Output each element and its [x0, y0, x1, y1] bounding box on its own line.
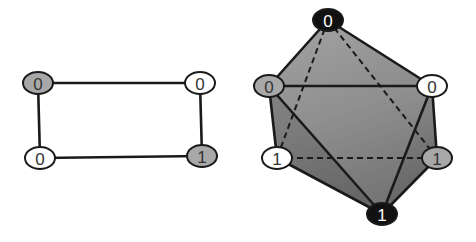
diagram-canvas: 0001000111 — [0, 0, 476, 242]
node-label: 1 — [377, 206, 386, 225]
node-label: 0 — [195, 75, 204, 94]
octahedron-node-ul: 0 — [254, 75, 284, 97]
node-label: 0 — [35, 150, 44, 169]
square-node-tr: 0 — [185, 72, 215, 94]
node-label: 0 — [264, 78, 273, 97]
octahedron-node-lr: 1 — [422, 147, 452, 169]
square-node-tl: 0 — [23, 72, 53, 94]
node-label: 0 — [323, 12, 332, 31]
square-node-br: 1 — [187, 145, 217, 167]
node-label: 0 — [427, 78, 436, 97]
node-label: 0 — [33, 75, 42, 94]
square-edge — [40, 156, 202, 158]
octahedron-node-top: 0 — [313, 9, 343, 31]
square-node-bl: 0 — [25, 147, 55, 169]
octahedron-node-bot: 1 — [367, 203, 397, 225]
octahedron-node-ll: 1 — [262, 147, 292, 169]
node-label: 1 — [197, 148, 206, 167]
node-label: 1 — [272, 150, 281, 169]
node-label: 1 — [432, 150, 441, 169]
octahedron-node-ur: 0 — [417, 75, 447, 97]
